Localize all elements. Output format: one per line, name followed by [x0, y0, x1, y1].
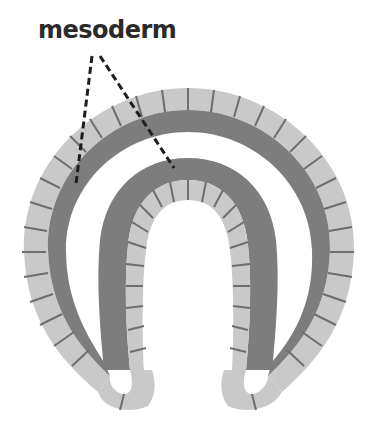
outer-ectoderm-band — [24, 88, 354, 392]
germ-layer-diagram — [0, 0, 376, 436]
